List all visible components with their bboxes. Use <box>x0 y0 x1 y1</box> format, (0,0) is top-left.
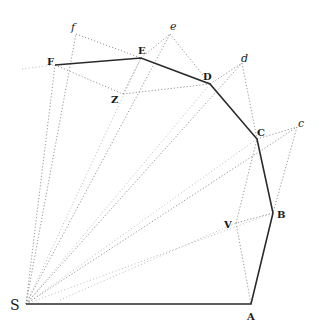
label-E: E <box>138 45 146 56</box>
label-D: D <box>203 71 212 82</box>
label-d: d <box>241 52 248 65</box>
label-Z: Z <box>111 94 118 105</box>
label-f: f <box>70 21 77 34</box>
radii-from-S <box>26 34 297 304</box>
geometric-diagram: S A B C D E F V Z c d e f <box>0 0 318 336</box>
orbit-polygon <box>26 58 273 304</box>
point-labels: S A B C D E F V Z c d e f <box>10 20 304 322</box>
label-V: V <box>223 219 232 230</box>
label-B: B <box>277 209 285 220</box>
label-F: F <box>47 56 54 67</box>
label-e: e <box>170 20 177 33</box>
label-A: A <box>246 311 255 322</box>
label-c: c <box>298 117 304 130</box>
construction-lines <box>22 34 297 304</box>
label-S: S <box>10 297 20 313</box>
label-C: C <box>257 127 265 138</box>
